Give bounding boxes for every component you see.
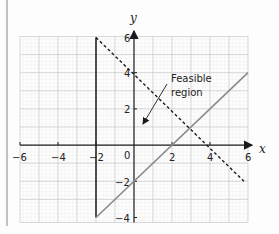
y-axis-label: y <box>129 11 137 25</box>
chart-root: y x −6 −4 −2 0 2 4 6 6 4 2 −2 −4 Feasibl… <box>0 0 279 234</box>
y-tick-m2: −2 <box>115 177 130 188</box>
chart-svg: y x −6 −4 −2 0 2 4 6 6 4 2 −2 −4 Feasibl… <box>0 0 279 234</box>
y-tick-2: 2 <box>124 104 130 115</box>
origin-label: 0 <box>124 150 130 161</box>
annotation-line2: region <box>171 87 203 98</box>
y-tick-m4: −4 <box>115 213 130 224</box>
x-tick-m4: −4 <box>51 152 66 163</box>
x-axis-label: x <box>259 142 266 156</box>
x-tick-2: 2 <box>169 152 175 163</box>
annotation-line1: Feasible <box>171 73 212 84</box>
x-tick-4: 4 <box>207 152 213 163</box>
x-tick-6: 6 <box>245 152 251 163</box>
x-tick-m6: −6 <box>12 152 27 163</box>
y-tick-6: 6 <box>124 33 130 44</box>
